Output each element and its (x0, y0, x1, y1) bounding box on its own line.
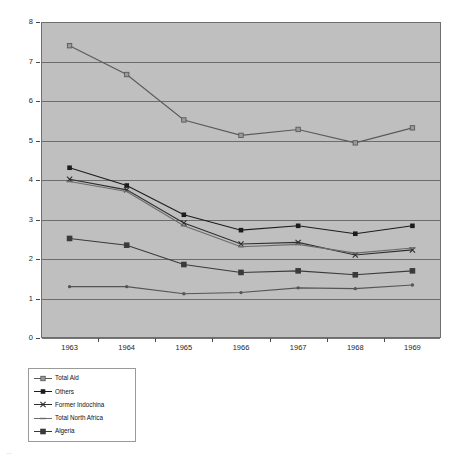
y-axis-tick-mark (36, 101, 40, 102)
legend-label: Total Aid (55, 375, 79, 381)
gridline (42, 338, 440, 339)
figure-caption: … (6, 449, 452, 456)
y-axis-tick-label: 6 (0, 97, 33, 105)
data-point (354, 287, 357, 290)
x-axis-tick-mark (98, 338, 99, 342)
legend-label: Others (55, 389, 74, 395)
legend-item-total-north-africa[interactable]: Total North Africa (33, 412, 132, 425)
x-axis-tick-mark (155, 338, 156, 342)
data-point (353, 141, 357, 145)
line-chart: 012345678 1963196419651966196719681969 (0, 0, 454, 348)
data-point (296, 286, 299, 289)
x-axis-tick-mark (270, 338, 271, 342)
data-point (353, 231, 358, 236)
y-axis-tick-mark (36, 62, 40, 63)
series-others (67, 165, 414, 236)
x-axis-tick-label: 1966 (219, 344, 263, 352)
legend-item-total-aid[interactable]: Total Aid (33, 372, 132, 385)
y-axis-tick-label: 8 (0, 18, 33, 26)
y-axis-tick-mark (36, 259, 40, 260)
data-point (296, 224, 301, 229)
y-axis-tick-label: 7 (0, 58, 33, 66)
legend-marker-icon (33, 414, 53, 423)
x-axis-tick-label: 1963 (48, 344, 92, 352)
data-point (352, 272, 358, 278)
legend-label: Algeria (55, 428, 75, 434)
series-former-indochina (67, 177, 415, 258)
y-axis-tick-mark (36, 141, 40, 142)
y-axis-tick-label: 0 (0, 334, 33, 342)
data-point (67, 165, 72, 170)
data-point (124, 242, 130, 248)
legend-item-former-indochina[interactable]: Former Indochina (33, 398, 132, 411)
x-axis-tick-mark (384, 338, 385, 342)
legend-item-algeria[interactable]: Algeria (33, 425, 132, 438)
data-point (238, 270, 244, 276)
x-axis-tick-label: 1969 (390, 344, 434, 352)
y-axis-tick-label: 4 (0, 176, 33, 184)
legend-marker-icon (33, 387, 53, 396)
x-axis-tick-label: 1967 (276, 344, 320, 352)
data-point (125, 72, 129, 76)
data-point (182, 292, 185, 295)
y-axis-tick-label: 5 (0, 137, 33, 145)
data-point (295, 268, 301, 274)
legend-label: Total North Africa (55, 415, 103, 421)
y-axis-tick-mark (36, 338, 40, 339)
y-axis-tick-mark (36, 22, 40, 23)
data-point (67, 236, 73, 242)
data-point (40, 429, 46, 435)
y-axis-tick-label: 2 (0, 255, 33, 263)
data-point (182, 118, 186, 122)
y-axis-tick-mark (36, 299, 40, 300)
data-point (410, 268, 416, 274)
data-point (239, 133, 243, 137)
series-algeria (67, 236, 415, 278)
data-point (239, 291, 242, 294)
chart-legend: Total AidOthersFormer IndochinaTotal Nor… (28, 368, 136, 442)
series-layer (41, 22, 441, 338)
y-axis-tick-mark (36, 220, 40, 221)
y-axis: 012345678 (0, 0, 41, 348)
data-point (68, 285, 71, 288)
data-point (239, 228, 244, 233)
data-point (41, 389, 46, 394)
data-point (410, 126, 414, 130)
series-total-aid (67, 44, 414, 146)
data-point (296, 127, 300, 131)
chart-page: 012345678 1963196419651966196719681969 T… (0, 0, 454, 460)
x-axis-tick-mark (212, 338, 213, 342)
data-point (411, 283, 414, 286)
data-point (181, 262, 187, 268)
x-axis-tick-mark (327, 338, 328, 342)
y-axis-tick-label: 3 (0, 216, 33, 224)
legend-marker-icon (33, 427, 53, 436)
legend-item-others[interactable]: Others (33, 385, 132, 398)
legend-marker-icon (33, 400, 53, 409)
x-axis-tick-label: 1964 (105, 344, 149, 352)
x-axis-tick-label: 1965 (162, 344, 206, 352)
series-total-north-africa (67, 182, 416, 253)
legend-marker-icon (33, 374, 53, 383)
data-point (67, 44, 71, 48)
y-axis-tick-label: 1 (0, 295, 33, 303)
legend-label: Former Indochina (55, 402, 104, 408)
data-point (125, 285, 128, 288)
y-axis-tick-mark (36, 180, 40, 181)
data-point (182, 212, 187, 217)
data-point (124, 183, 129, 188)
data-point (41, 376, 45, 380)
series-algeria-lower (68, 283, 414, 295)
x-axis-tick-label: 1968 (333, 344, 377, 352)
data-point (410, 224, 415, 229)
